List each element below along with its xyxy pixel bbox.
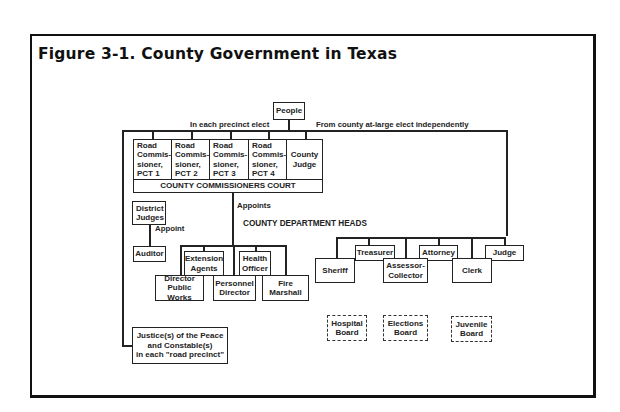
hospital-board: Hospital Board: [327, 315, 367, 341]
connector: [506, 130, 508, 236]
road-commissioner-pct1: Road Commis- sioner, PCT 1: [133, 139, 172, 180]
figure-frame: [30, 34, 596, 398]
connector: [180, 245, 182, 275]
clerk: Clerk: [452, 258, 492, 283]
road-commissioner-pct3: Road Commis- sioner, PCT 3: [209, 139, 249, 180]
health-officer: Health Officer: [239, 251, 271, 276]
connector: [122, 130, 124, 346]
road-commissioner-pct2: Road Commis- sioner, PCT 2: [171, 139, 210, 180]
assessor-collector: Assessor- Collector: [383, 258, 428, 283]
appoints-label: Appoints: [237, 201, 271, 210]
connector: [405, 237, 407, 259]
figure-title: Figure 3-1. County Government in Texas: [38, 45, 397, 63]
precinct-elect-label: In each precinct elect: [190, 120, 269, 129]
fire-marshall: Fire Marshall: [262, 275, 309, 301]
sheriff: Sheriff: [315, 258, 355, 283]
at-large-elect-label: From county at-large elect independently: [316, 120, 469, 129]
connector: [149, 225, 151, 246]
auditor: Auditor: [133, 246, 166, 262]
elections-board: Elections Board: [383, 315, 428, 341]
extension-agents: Extension Agents: [184, 251, 224, 276]
people-label: People: [276, 106, 302, 116]
district-judges: District Judges: [132, 201, 166, 225]
people-box: People: [273, 102, 305, 120]
county-judge: County Judge: [286, 139, 323, 180]
connector: [288, 120, 290, 130]
connector: [233, 245, 235, 275]
justices-of-the-peace: Justice(s) of the Peace and Constable(s)…: [132, 327, 228, 364]
connector: [336, 237, 506, 239]
road-commissioner-pct4: Road Commis- sioner, PCT 4: [248, 139, 287, 180]
county-commissioners-court: COUNTY COMMISSIONERS COURT: [133, 179, 323, 193]
director-public-works: Director Public Works: [155, 275, 204, 301]
juvenile-board: Juvenile Board: [451, 316, 492, 342]
connector: [336, 237, 338, 259]
connector: [122, 130, 507, 132]
personnel-director: Personnel Director: [213, 275, 256, 301]
connector: [285, 245, 287, 275]
connector: [232, 193, 234, 245]
connector: [471, 237, 473, 259]
appoint-label: Appoint: [155, 224, 184, 233]
department-heads-label: COUNTY DEPARTMENT HEADS: [243, 219, 367, 228]
